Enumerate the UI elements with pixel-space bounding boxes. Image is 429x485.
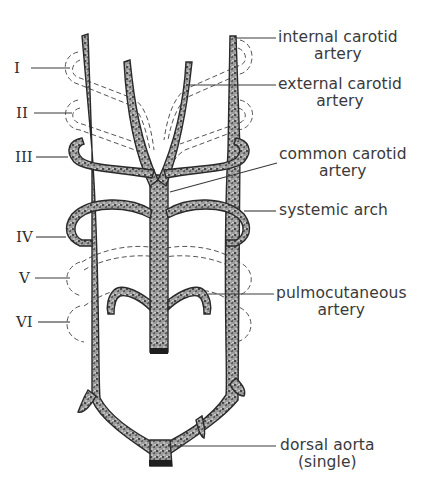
- aortic-arch-diagram: [0, 0, 429, 485]
- label-pulmocutaneous: pulmocutaneous artery: [276, 285, 407, 319]
- arch-IV-left: [66, 200, 152, 246]
- arch-numeral-III: III: [15, 149, 33, 165]
- label-external-carotid: external carotid artery: [278, 76, 402, 110]
- label-common-carotid: common carotid artery: [279, 146, 407, 180]
- arch-numeral-II: II: [16, 105, 28, 121]
- pulmocutaneous-left: [107, 287, 150, 314]
- ventral-aorta-cut: [150, 348, 168, 354]
- label-dorsal-aorta: dorsal aorta (single): [280, 437, 375, 471]
- arch-numeral-IV: IV: [16, 229, 33, 245]
- label-systemic-arch: systemic arch: [279, 202, 388, 219]
- pulmocutaneous-right: [168, 287, 211, 314]
- arch-numeral-V: V: [19, 270, 30, 286]
- label-internal-carotid: internal carotid artery: [278, 29, 398, 63]
- arch-numeral-VI: VI: [16, 314, 33, 330]
- arch-numeral-I: I: [14, 60, 20, 76]
- ventral-aorta: [150, 175, 168, 352]
- left-spur: [78, 390, 96, 412]
- dorsal-aorta-cut: [149, 460, 172, 466]
